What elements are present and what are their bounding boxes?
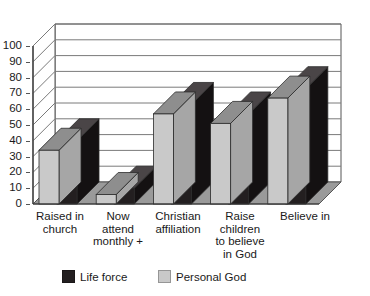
legend-label-0: Life force bbox=[80, 271, 127, 283]
x-category-label-4: Believe in bbox=[265, 210, 345, 223]
legend-item-life-force[interactable]: Life force bbox=[62, 270, 127, 283]
clipped-caption-remnant bbox=[0, 0, 370, 8]
y-tick-mark-30 bbox=[26, 157, 30, 158]
y-tick-label-0: 0 bbox=[16, 198, 22, 210]
bar-personal-god-4 bbox=[268, 76, 310, 204]
legend-swatch-1 bbox=[158, 270, 171, 283]
bar-personal-god-3 bbox=[211, 101, 253, 204]
y-tick-mark-80 bbox=[26, 78, 30, 79]
y-axis-labels: 0102030405060708090100 bbox=[0, 0, 30, 296]
y-tick-mark-100 bbox=[26, 46, 30, 47]
x-axis-labels: Raised in churchNow attend monthly +Chri… bbox=[28, 206, 370, 268]
y-tick-label-40: 40 bbox=[9, 135, 22, 147]
y-tick-label-50: 50 bbox=[9, 119, 22, 131]
bar-personal-god-2 bbox=[153, 92, 195, 204]
plot-area bbox=[33, 20, 363, 210]
y-tick-label-100: 100 bbox=[3, 40, 22, 52]
chart-legend: Life forcePersonal God bbox=[0, 268, 370, 290]
y-tick-mark-60 bbox=[26, 109, 30, 110]
y-tick-label-20: 20 bbox=[9, 166, 22, 178]
bar-personal-god-1-front bbox=[96, 195, 116, 204]
y-tick-mark-40 bbox=[26, 141, 30, 142]
y-tick-label-60: 60 bbox=[9, 103, 22, 115]
bar-personal-god-2-front bbox=[153, 114, 173, 204]
y-tick-label-70: 70 bbox=[9, 87, 22, 99]
plot-svg bbox=[33, 20, 363, 220]
y-tick-label-30: 30 bbox=[9, 151, 22, 163]
bar-personal-god-0-front bbox=[39, 150, 59, 204]
y-tick-mark-70 bbox=[26, 93, 30, 94]
y-tick-mark-0 bbox=[26, 204, 30, 205]
bar-personal-god-3-front bbox=[211, 123, 231, 204]
y-tick-label-80: 80 bbox=[9, 72, 22, 84]
y-tick-mark-10 bbox=[26, 188, 30, 189]
y-tick-mark-90 bbox=[26, 62, 30, 63]
y-tick-mark-50 bbox=[26, 125, 30, 126]
y-tick-label-90: 90 bbox=[9, 56, 22, 68]
bar-personal-god-4-front bbox=[268, 98, 288, 204]
legend-label-1: Personal God bbox=[176, 271, 246, 283]
y-tick-mark-20 bbox=[26, 172, 30, 173]
chart-container: 0102030405060708090100 Raised in churchN… bbox=[0, 0, 370, 296]
legend-swatch-0 bbox=[62, 270, 75, 283]
y-tick-label-10: 10 bbox=[9, 182, 22, 194]
legend-item-personal-god[interactable]: Personal God bbox=[158, 270, 246, 283]
